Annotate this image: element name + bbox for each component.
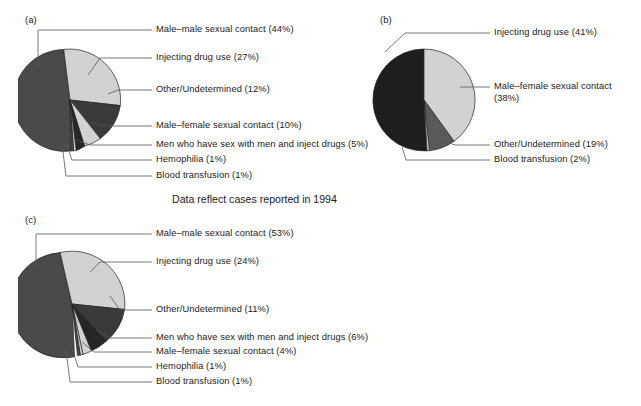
label-c-male-female: Male–female sexual contact (4%) [156, 346, 296, 358]
panel-a-tag: (a) [25, 14, 37, 25]
label-b-male-female: Male–female sexual contact (38%) [494, 81, 619, 104]
label-a-hemophilia: Hemophilia (1%) [156, 154, 226, 166]
pie-chart-a [18, 48, 122, 152]
label-a-male-female: Male–female sexual contact (10%) [156, 120, 302, 132]
label-a-other-undetermined: Other/Undetermined (12%) [156, 84, 270, 96]
label-c-other-undetermined: Other/Undetermined (11%) [156, 304, 269, 316]
label-a-blood-transfusion: Blood transfusion (1%) [156, 170, 252, 182]
pie-c-slices [18, 251, 125, 358]
pie-a-slices [18, 49, 121, 151]
label-c-msm-inject: Men who have sex with men and inject dru… [156, 332, 368, 344]
pie-chart-b [372, 48, 476, 152]
label-c-blood-transfusion: Blood transfusion (1%) [156, 376, 252, 388]
slice-a-injecting-drug-use [64, 49, 121, 106]
pie-chart-c [18, 250, 126, 358]
slice-a-male-male [18, 49, 71, 151]
panel-b-tag: (b) [380, 14, 392, 25]
pie-b-slices [373, 49, 475, 151]
label-c-injecting-drug-use: Injecting drug use (24%) [156, 256, 259, 268]
pie-a-svg [18, 48, 122, 152]
pie-b-svg [372, 48, 476, 152]
slice-b-injecting-drug-use [373, 49, 427, 151]
label-a-msm-inject: Men who have sex with men and inject dru… [156, 139, 368, 151]
figure-caption: Data reflect cases reported in 1994 [172, 193, 337, 205]
pie-c-svg [18, 250, 126, 358]
panel-c-tag: (c) [25, 214, 36, 225]
label-a-injecting-drug-use: Injecting drug use (27%) [156, 52, 259, 64]
label-b-injecting-drug-use: Injecting drug use (41%) [494, 27, 597, 39]
label-c-hemophilia: Hemophilia (1%) [156, 361, 226, 373]
label-a-male-male: Male–male sexual contact (44%) [156, 24, 294, 36]
label-b-other-undetermined: Other/Undetermined (19%) [494, 139, 608, 151]
label-c-male-male: Male–male sexual contact (53%) [156, 228, 294, 240]
label-b-blood-transfusion: Blood transfusion (2%) [494, 154, 590, 166]
